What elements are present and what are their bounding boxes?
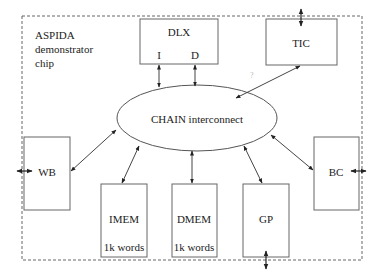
dlx-label: DLX <box>168 26 191 38</box>
stray-mark: ? <box>250 70 254 82</box>
dlx-port-i-label: I <box>157 49 161 61</box>
gp-label: GP <box>259 213 273 225</box>
tic-label: TIC <box>292 37 310 49</box>
chip-label-line1: ASPIDA <box>35 29 75 41</box>
gp-link <box>244 146 262 183</box>
diagram-canvas <box>0 0 381 276</box>
imem-link <box>122 146 139 183</box>
wb-label: WB <box>38 166 56 178</box>
wb-link <box>71 130 116 171</box>
tic-link <box>236 66 300 98</box>
dmem-label: DMEM <box>177 213 211 225</box>
chip-label-line2: demonstrator <box>35 43 93 55</box>
chip-label-line3: chip <box>35 57 54 69</box>
bc-link <box>271 135 313 170</box>
dmem-size-label: 1k words <box>174 241 215 253</box>
imem-label: IMEM <box>109 213 139 225</box>
bc-label: BC <box>329 166 344 178</box>
chain-interconnect-label: CHAIN interconnect <box>151 113 243 125</box>
dlx-port-d-label: D <box>191 49 199 61</box>
imem-size-label: 1k words <box>104 241 145 253</box>
